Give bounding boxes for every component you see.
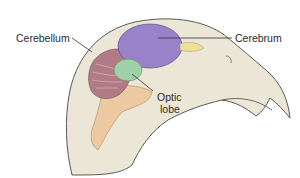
label-cerebrum: Cerebrum xyxy=(235,33,282,44)
label-cerebellum: Cerebellum xyxy=(16,33,70,44)
label-optic-lobe-line1: Optic xyxy=(157,92,182,103)
bird-head-illustration xyxy=(0,0,300,178)
bird-brain-diagram: Cerebellum Cerebrum Optic lobe xyxy=(0,0,300,178)
optic-lobe xyxy=(114,59,142,81)
label-optic-lobe-line2: lobe xyxy=(160,104,180,115)
cerebellum-leader xyxy=(72,38,92,52)
